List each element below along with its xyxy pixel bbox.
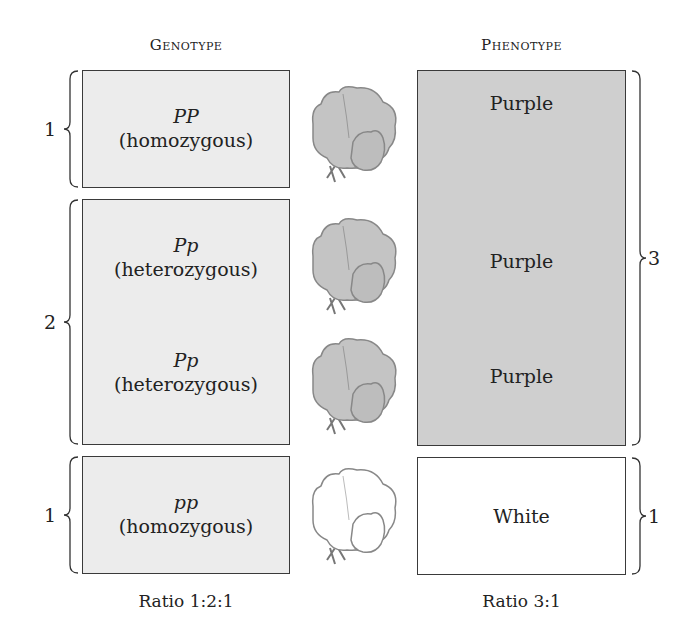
genotype-count-PP: 1 — [44, 118, 56, 140]
genotype-box-PP: PP (homozygous) — [82, 70, 290, 188]
genotype-symbol: pp — [83, 490, 289, 514]
phenotype-label: White — [418, 504, 625, 528]
genotype-count-Pp: 2 — [44, 311, 56, 333]
phenotype-label: Purple — [418, 249, 625, 273]
sweet-pea-flower-icon — [305, 460, 405, 570]
phenotype-label: Purple — [418, 364, 625, 388]
genotype-box-Pp: Pp (heterozygous) Pp (heterozygous) — [82, 199, 290, 445]
sweet-pea-flower-icon — [305, 210, 405, 320]
phenotype-count-white: 1 — [648, 505, 660, 527]
genotype-ratio: Ratio 1:2:1 — [82, 591, 290, 611]
right-brace-icon — [630, 70, 650, 446]
genotype-count-pp: 1 — [44, 504, 56, 526]
left-brace-icon — [62, 70, 82, 188]
sweet-pea-flower-icon — [305, 330, 405, 440]
phenotype-count-purple: 3 — [648, 247, 660, 269]
genotype-zygosity: (heterozygous) — [83, 257, 289, 281]
sweet-pea-flower-icon — [305, 78, 405, 188]
phenotype-box-white: White — [417, 457, 626, 575]
genotype-symbol: Pp — [83, 348, 289, 372]
genotype-box-pp: pp (homozygous) — [82, 456, 290, 574]
genotype-cell: Pp (heterozygous) — [83, 233, 289, 281]
left-brace-icon — [62, 199, 82, 445]
phenotype-box-purple: Purple Purple Purple — [417, 70, 626, 446]
phenotype-ratio: Ratio 3:1 — [417, 591, 626, 611]
genotype-cell: pp (homozygous) — [83, 490, 289, 538]
right-brace-icon — [630, 457, 650, 575]
genotype-header: Genotype — [82, 36, 290, 54]
phenotype-label: Purple — [418, 91, 625, 115]
left-brace-icon — [62, 456, 82, 574]
genotype-symbol: Pp — [83, 233, 289, 257]
phenotype-header: Phenotype — [417, 36, 626, 54]
genotype-zygosity: (heterozygous) — [83, 372, 289, 396]
genotype-zygosity: (homozygous) — [83, 128, 289, 152]
genotype-cell: Pp (heterozygous) — [83, 348, 289, 396]
genotype-symbol: PP — [83, 104, 289, 128]
genotype-zygosity: (homozygous) — [83, 514, 289, 538]
genotype-cell: PP (homozygous) — [83, 104, 289, 152]
